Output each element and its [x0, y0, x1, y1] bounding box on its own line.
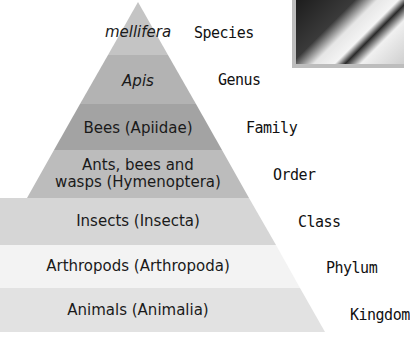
layer-label-phylum: Arthropods (Arthropoda): [0, 258, 276, 275]
photo-image: [296, 0, 404, 64]
rank-label-kingdom: Kingdom: [350, 306, 410, 324]
layer-label-order-line1: Ants, bees and: [28, 157, 248, 174]
photo-inset: [292, 0, 404, 68]
rank-label-genus: Genus: [218, 71, 261, 89]
layer-label-species: mellifera: [88, 24, 188, 41]
layer-label-order: Ants, bees and wasps (Hymenoptera): [28, 157, 248, 191]
rank-label-family: Family: [246, 119, 297, 137]
layer-label-kingdom: Animals (Animalia): [0, 302, 276, 319]
rank-label-class: Class: [298, 213, 341, 231]
layer-label-genus: Apis: [88, 73, 188, 90]
rank-label-order: Order: [273, 166, 316, 184]
rank-label-species: Species: [194, 24, 254, 42]
layer-label-class: Insects (Insecta): [18, 213, 258, 230]
rank-label-phylum: Phylum: [326, 259, 377, 277]
layer-label-family: Bees (Apiidae): [48, 120, 228, 137]
layer-label-order-line2: wasps (Hymenoptera): [28, 174, 248, 191]
